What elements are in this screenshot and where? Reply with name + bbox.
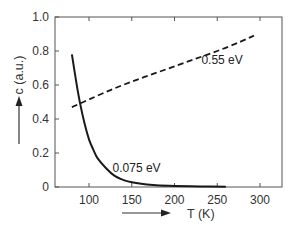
y-axis-label: c (a.u.) <box>12 56 26 95</box>
series-label: 0.075 eV <box>113 161 161 175</box>
series-line-0-55-ev <box>72 36 254 107</box>
plot-area-border <box>55 17 282 187</box>
chart: 100150200250300 00.20.40.60.81.0 0.55 eV… <box>0 0 296 229</box>
y-tick-label: 0.2 <box>32 146 49 160</box>
x-tick-label: 250 <box>207 193 227 207</box>
x-tick-label: 200 <box>164 193 184 207</box>
x-axis-arrow-icon <box>122 210 171 217</box>
y-tick-label: 0 <box>42 180 49 194</box>
x-tick-label: 100 <box>79 193 99 207</box>
annotations: 0.55 eV0.075 eV <box>113 53 243 176</box>
y-tick-label: 0.4 <box>32 112 49 126</box>
y-tick-label: 0.6 <box>32 78 49 92</box>
x-tick-label: 300 <box>250 193 270 207</box>
series-label: 0.55 eV <box>201 53 242 67</box>
x-tick-label: 150 <box>122 193 142 207</box>
x-axis-label: T (K) <box>187 207 215 221</box>
y-tick-label: 0.8 <box>32 44 49 58</box>
y-tick-label: 1.0 <box>32 10 49 24</box>
plot-frame <box>55 17 282 187</box>
y-axis-arrow-icon <box>16 96 23 144</box>
x-axis-ticks: 100150200250300 <box>79 17 270 207</box>
